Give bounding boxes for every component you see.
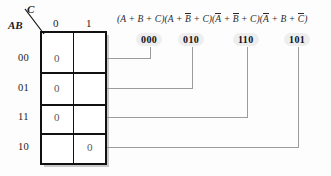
maxterm-label-000[interactable]: 000 bbox=[136, 33, 162, 46]
column-header-1: 1 bbox=[86, 17, 92, 29]
kmap-cell-10-1[interactable]: 0 bbox=[87, 141, 93, 153]
row-variable-label: AB bbox=[8, 19, 23, 31]
kmap-cell-11-0[interactable]: 0 bbox=[54, 111, 60, 123]
maxterm-label-110[interactable]: 110 bbox=[233, 33, 259, 46]
row-header-11: 11 bbox=[18, 111, 29, 122]
row-header-00: 00 bbox=[18, 52, 29, 63]
expr-term-2: (A + B + C) bbox=[165, 14, 213, 24]
col-variable-label: C bbox=[27, 3, 34, 15]
expr-term-1: (A + B + C) bbox=[117, 14, 165, 24]
column-header-0: 0 bbox=[53, 17, 59, 29]
pos-expression: (A + B + C)(A + B + C)(A + B + C)(A + B … bbox=[117, 13, 308, 24]
kmap-cell-01-0[interactable]: 0 bbox=[54, 82, 60, 94]
leader-101 bbox=[102, 47, 298, 147]
maxterm-label-010[interactable]: 010 bbox=[178, 33, 204, 46]
kmap-grid bbox=[41, 32, 106, 164]
expr-term-3: (A + B + C) bbox=[212, 14, 260, 24]
row-header-01: 01 bbox=[18, 82, 29, 93]
row-header-10: 10 bbox=[18, 141, 29, 152]
diagram-canvas bbox=[0, 0, 331, 176]
maxterm-label-101[interactable]: 101 bbox=[284, 33, 310, 46]
expr-term-4: (A + B + C) bbox=[260, 14, 308, 24]
kmap-diagram: (A + B + C)(A + B + C)(A + B + C)(A + B … bbox=[0, 0, 331, 176]
kmap-cell-00-0[interactable]: 0 bbox=[54, 52, 60, 64]
